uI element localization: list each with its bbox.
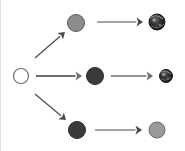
bottom-row-result-circle[interactable] (149, 122, 165, 138)
source-circle[interactable] (14, 69, 29, 84)
top-row-result-circle[interactable] (149, 14, 165, 30)
branch-arrow-straight (36, 72, 82, 81)
branch-arrow-down (35, 94, 66, 120)
diagram-canvas (0, 0, 185, 151)
middle-row-transform-arrow (111, 72, 153, 81)
top-row-middle-circle[interactable] (68, 15, 85, 32)
middle-row-middle-circle[interactable] (87, 68, 104, 85)
middle-row-result-circle[interactable] (160, 70, 173, 83)
bottom-row-middle-circle[interactable] (69, 122, 86, 139)
top-row-transform-arrow (97, 18, 143, 27)
branching-circle-flow-diagram (0, 0, 185, 151)
branch-arrow-up (35, 32, 65, 58)
bottom-row-transform-arrow (95, 126, 142, 135)
